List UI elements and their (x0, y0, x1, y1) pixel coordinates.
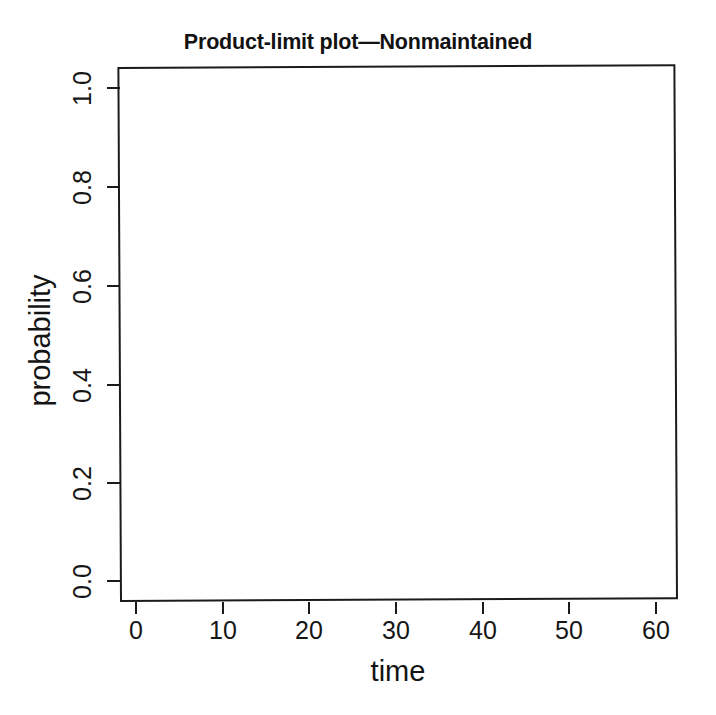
x-tick-label: 30 (361, 616, 431, 645)
y-tick-mark (107, 87, 120, 89)
x-tick-label: 40 (448, 616, 518, 645)
x-axis-title: time (0, 655, 716, 688)
x-tick-mark (222, 602, 224, 614)
y-tick-label: 0.8 (0, 173, 100, 202)
plot-frame (117, 64, 678, 602)
plot-area (119, 66, 676, 600)
x-tick-mark (655, 602, 657, 614)
x-tick-label: 50 (534, 616, 604, 645)
x-tick-label: 60 (621, 616, 691, 645)
y-tick-label-text: 0.2 (68, 466, 97, 501)
y-tick-mark (107, 186, 120, 188)
y-tick-label-text: 0.8 (68, 170, 97, 205)
y-tick-label: 0.2 (0, 469, 100, 498)
y-tick-label-text: 0.6 (68, 269, 97, 304)
y-tick-label-text: 1.0 (68, 71, 97, 106)
y-tick-mark (107, 384, 120, 386)
chart-title: Product-limit plot—Nonmaintained (0, 30, 716, 55)
x-tick-mark (135, 602, 137, 614)
y-tick-label-text: 0.4 (68, 368, 97, 403)
y-tick-label: 0.0 (0, 567, 100, 596)
y-tick-mark (107, 285, 120, 287)
data-series-layer (119, 66, 676, 600)
x-tick-mark (482, 602, 484, 614)
y-tick-mark (107, 482, 120, 484)
x-tick-label: 20 (274, 616, 344, 645)
x-tick-mark (308, 602, 310, 614)
x-tick-mark (568, 602, 570, 614)
y-tick-mark (107, 580, 120, 582)
x-tick-label: 0 (101, 616, 171, 645)
y-axis-title: probability (14, 240, 66, 440)
x-tick-mark (395, 602, 397, 614)
x-tick-label: 10 (188, 616, 258, 645)
product-limit-plot-figure: Product-limit plot—Nonmaintained 0 10 20… (0, 0, 716, 715)
y-tick-label: 1.0 (0, 74, 100, 103)
y-tick-label-text: 0.0 (68, 564, 97, 599)
y-axis-title-text: probability (24, 274, 57, 406)
